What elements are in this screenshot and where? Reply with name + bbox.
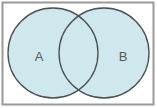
set-b-label: B xyxy=(119,49,128,64)
set-a-label: A xyxy=(35,49,44,64)
circle-fills xyxy=(8,8,149,98)
venn-diagram: A B xyxy=(0,0,157,108)
